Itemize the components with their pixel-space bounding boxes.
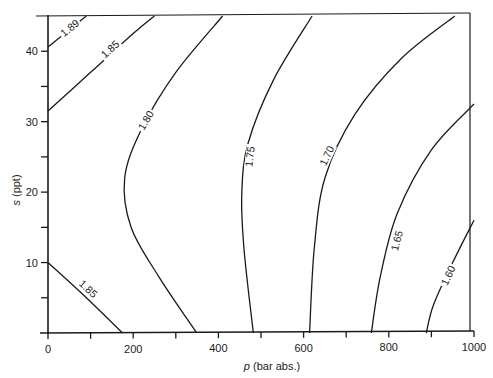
- x-tick-label: 600: [294, 342, 312, 354]
- y-tick-label: 20: [26, 186, 38, 198]
- y-axis-label: s (ppt): [10, 174, 22, 205]
- axis-labels: p (bar abs.) s (ppt): [10, 174, 300, 372]
- x-axis-label: p (bar abs.): [243, 360, 300, 372]
- contour-line-1-75: [242, 16, 313, 333]
- contour-chart: 0200400600800100010203040 1.891.851.851.…: [0, 0, 493, 378]
- x-tick-label: 0: [45, 343, 51, 355]
- x-tick-label: 800: [380, 341, 398, 353]
- x-tick-label: 400: [209, 342, 227, 354]
- y-tick-label: 10: [26, 257, 38, 269]
- top-border: [36, 13, 470, 16]
- x-axis-line: [40, 331, 474, 333]
- y-tick-label: 40: [26, 45, 38, 57]
- x-tick-label: 1000: [462, 341, 486, 353]
- y-tick-label: 30: [26, 116, 38, 128]
- axes: 0200400600800100010203040: [26, 13, 486, 355]
- x-tick-label: 200: [124, 343, 142, 355]
- contour-line-1-70: [310, 16, 455, 333]
- contour-line-1-85: [48, 263, 123, 333]
- contour-label: 1.75: [242, 145, 257, 167]
- contour-line-1-80: [124, 16, 223, 333]
- contour-line-1-65: [371, 104, 474, 333]
- contour-lines: 1.891.851.851.801.751.701.651.60: [48, 16, 474, 333]
